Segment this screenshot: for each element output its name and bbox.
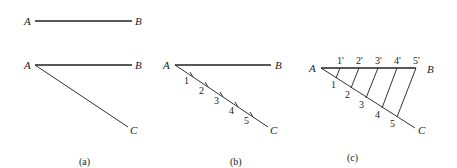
panel-c-parallel-4 [382,68,397,108]
panel-c-proj-3: 3' [375,55,382,66]
panel-b-division-5: 5 [244,115,249,126]
panel-b: A B C 1 2 3 4 5 (b) [162,59,282,168]
panel-a-ray-ac [35,65,128,127]
panel-c-ray-ac [321,68,415,128]
panel-b-division-2: 2 [199,85,204,96]
panel-c-proj-5: 5' [413,55,420,66]
panel-c-division-1: 1 [331,79,336,90]
panel-a: A B A B C (a) [23,15,142,168]
panel-a-label-c: C [130,124,138,136]
panel-a-label-b: B [135,59,142,71]
panel-a-vertex-label-a: A [23,59,31,71]
panel-c-label-a: A [308,62,316,74]
panel-c-division-5: 5 [390,118,395,129]
panel-c-caption: (c) [347,152,358,164]
panel-a-caption: (a) [79,156,90,168]
panel-b-label-a: A [162,59,170,71]
panel-c-label-b: B [427,63,434,75]
panel-b-label-b: B [275,59,282,71]
panel-b-division-1: 1 [184,75,189,86]
panel-c: A B C 1' 2' 3' 4' 5' 1 2 3 4 5 (c) [308,55,434,164]
panel-a-top-label-a: A [23,15,31,27]
panel-c-proj-1: 1' [337,55,344,66]
panel-a-top-label-b: B [135,15,142,27]
panel-c-parallel-5 [397,68,416,117]
panel-c-parallel-3 [366,68,378,98]
panel-b-division-3: 3 [214,95,219,106]
panel-c-parallel-2 [351,68,359,88]
segment-division-diagram: A B A B C (a) A B C 1 2 3 4 5 (b) A B C [0,0,457,168]
panel-c-division-4: 4 [375,109,380,120]
panel-b-caption: (b) [230,156,242,168]
panel-c-parallel-1 [336,68,340,78]
panel-c-division-2: 2 [345,89,350,100]
panel-c-proj-4: 4' [394,55,401,66]
panel-b-label-c: C [270,124,278,136]
panel-c-division-3: 3 [359,99,364,110]
panel-c-label-c: C [418,124,426,136]
panel-b-division-4: 4 [229,105,234,116]
panel-c-proj-2: 2' [356,55,363,66]
